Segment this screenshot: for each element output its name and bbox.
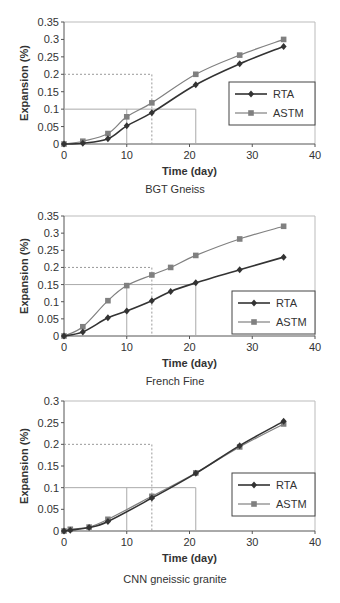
x-axis-label: Time (day) [162,552,217,564]
chart-2: 00.050.10.150.20.250.30.35010203040RTAAS… [18,210,321,387]
x-tick-label: 10 [121,341,133,353]
x-tick-label: 0 [61,341,67,353]
legend: RTAASTM [229,82,315,125]
x-tick-label: 40 [309,536,321,548]
y-tick-label: 0.05 [38,503,59,515]
y-tick-label: 0.2 [44,68,59,80]
y-tick-label: 0.3 [44,33,59,45]
y-tick-label: 0.1 [44,482,59,494]
y-tick-label: 0 [53,330,59,342]
y-tick-label: 0.25 [38,51,59,63]
x-tick-label: 10 [121,149,133,161]
y-axis-label: Expansion (%) [18,238,30,314]
legend-label: ASTM [276,498,307,510]
chart-3: 00.050.10.150.20.250.3010203040RTAASTMTi… [18,395,321,585]
x-tick-label: 20 [183,341,195,353]
legend-label: RTA [276,479,298,491]
x-tick-label: 40 [309,341,321,353]
y-tick-label: 0.3 [44,227,59,239]
legend: RTAASTM [232,473,315,516]
x-tick-label: 30 [246,149,258,161]
legend-label: ASTM [273,107,304,119]
x-tick-label: 30 [246,536,258,548]
y-tick-label: 0.05 [38,121,59,133]
y-tick-label: 0.35 [38,16,59,28]
x-tick-label: 0 [61,149,67,161]
y-tick-label: 0.15 [38,86,59,98]
legend-label: RTA [273,88,295,100]
y-tick-label: 0 [53,138,59,150]
legend: RTAASTM [232,291,315,334]
chart-caption: BGT Gneiss [145,183,205,195]
chart-caption: CNN gneissic granite [123,573,226,585]
chart-caption: French Fine [146,375,205,387]
y-tick-label: 0.25 [38,244,59,256]
y-tick-label: 0.1 [44,103,59,115]
y-tick-label: 0.15 [38,279,59,291]
x-tick-label: 20 [183,536,195,548]
chart-1: 00.050.10.150.20.250.30.35010203040RTAAS… [18,16,321,195]
y-tick-label: 0.15 [38,460,59,472]
legend-label: RTA [276,297,298,309]
y-tick-label: 0 [53,525,59,537]
y-tick-label: 0.1 [44,296,59,308]
x-tick-label: 20 [183,149,195,161]
y-tick-label: 0.05 [38,313,59,325]
legend-label: ASTM [276,316,307,328]
x-axis-label: Time (day) [162,165,217,177]
y-axis-label: Expansion (%) [18,45,30,121]
y-tick-label: 0.3 [44,395,59,407]
y-tick-label: 0.2 [44,261,59,273]
charts-figure: 00.050.10.150.20.250.30.35010203040RTAAS… [0,0,340,603]
y-axis-label: Expansion (%) [18,428,30,504]
y-tick-label: 0.2 [44,438,59,450]
y-tick-label: 0.25 [38,417,59,429]
y-tick-label: 0.35 [38,210,59,222]
x-axis-label: Time (day) [162,357,217,369]
x-tick-label: 10 [121,536,133,548]
x-tick-label: 30 [246,341,258,353]
x-tick-label: 0 [61,536,67,548]
x-tick-label: 40 [309,149,321,161]
